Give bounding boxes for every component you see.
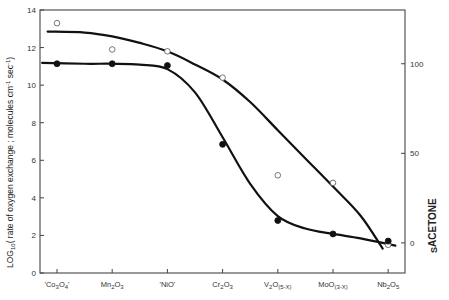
fit-curves [42, 32, 395, 249]
left-tick-label: 0 [32, 269, 37, 278]
acetone-selectivity-fit-curve [42, 63, 395, 246]
left-tick-label: 6 [32, 156, 37, 165]
acetone-selectivity-point [275, 218, 281, 224]
oxygen-exchange-point [275, 173, 281, 179]
left-tick-label: 14 [27, 6, 36, 15]
left-tick-label: 2 [32, 231, 37, 240]
acetone-selectivity-point [385, 238, 391, 244]
acetone-selectivity-point [220, 141, 226, 147]
oxygen-exchange-point [109, 47, 115, 53]
oxygen-exchange-point [165, 49, 171, 55]
oxygen-exchange-point [54, 20, 60, 26]
x-category-label: V2O(5-X) [264, 280, 292, 290]
x-category-label: 'Co3O4' [45, 280, 71, 290]
x-category-label: Mn2O3 [101, 280, 125, 290]
right-tick-label: 0 [410, 239, 415, 248]
x-category-label: MoO(3-X) [318, 280, 348, 290]
chart-canvas: 02468101214 050100 'Co3O4'Mn2O3'NiO'Cr2O… [0, 0, 449, 300]
data-points [54, 20, 391, 247]
acetone-selectivity-point [109, 61, 115, 67]
left-axis-title: LOG10( rate of oxygen exchange ; molecul… [5, 57, 16, 268]
right-tick-label: 50 [410, 149, 419, 158]
left-tick-label: 10 [27, 81, 36, 90]
left-axis-ticks: 02468101214 [27, 6, 44, 278]
right-tick-label: 100 [410, 60, 424, 69]
left-tick-label: 12 [27, 44, 36, 53]
acetone-selectivity-point [330, 231, 336, 237]
right-axis-title: SACETONE [427, 198, 439, 253]
oxygen-exchange-point [220, 75, 226, 81]
oxygen-exchange-point [330, 180, 336, 186]
x-category-label: 'NiO' [160, 280, 176, 289]
acetone-selectivity-point [54, 61, 60, 67]
x-category-label: Cr2O3 [212, 280, 233, 290]
x-axis-ticks: 'Co3O4'Mn2O3'NiO'Cr2O3V2O(5-X)MoO(3-X)Nb… [45, 269, 400, 290]
left-tick-label: 8 [32, 119, 37, 128]
left-tick-label: 4 [32, 194, 37, 203]
x-category-label: Nb2O5 [377, 280, 400, 290]
acetone-selectivity-point [164, 63, 170, 69]
